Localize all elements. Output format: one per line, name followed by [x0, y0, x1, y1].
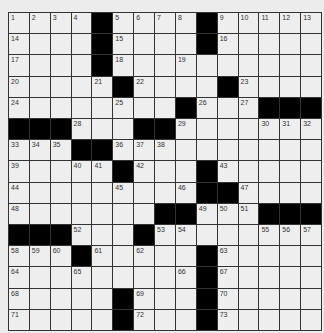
grid-cell[interactable] [113, 119, 133, 139]
grid-cell[interactable] [92, 204, 112, 224]
grid-cell[interactable] [134, 183, 154, 203]
grid-cell[interactable]: 17 [9, 55, 29, 75]
grid-cell[interactable] [259, 246, 279, 266]
grid-cell[interactable]: 18 [113, 55, 133, 75]
grid-cell[interactable] [259, 289, 279, 309]
grid-cell[interactable]: 5 [113, 13, 133, 33]
grid-cell[interactable] [280, 77, 300, 97]
grid-cell[interactable]: 49 [197, 204, 217, 224]
grid-cell[interactable] [280, 183, 300, 203]
grid-cell[interactable] [259, 77, 279, 97]
grid-cell[interactable]: 2 [30, 13, 50, 33]
grid-cell[interactable] [134, 34, 154, 54]
grid-cell[interactable] [155, 183, 175, 203]
grid-cell[interactable] [218, 225, 238, 245]
grid-cell[interactable] [197, 140, 217, 160]
grid-cell[interactable] [134, 55, 154, 75]
grid-cell[interactable]: 26 [197, 98, 217, 118]
grid-cell[interactable]: 1 [9, 13, 29, 33]
grid-cell[interactable] [92, 183, 112, 203]
grid-cell[interactable] [30, 310, 50, 330]
grid-cell[interactable] [259, 34, 279, 54]
grid-cell[interactable] [259, 310, 279, 330]
grid-cell[interactable]: 47 [239, 183, 259, 203]
grid-cell[interactable] [259, 161, 279, 181]
grid-cell[interactable]: 33 [9, 140, 29, 160]
grid-cell[interactable]: 46 [176, 183, 196, 203]
grid-cell[interactable]: 71 [9, 310, 29, 330]
grid-cell[interactable]: 69 [134, 289, 154, 309]
grid-cell[interactable] [197, 119, 217, 139]
grid-cell[interactable] [301, 140, 321, 160]
grid-cell[interactable]: 65 [72, 267, 92, 287]
grid-cell[interactable]: 58 [9, 246, 29, 266]
grid-cell[interactable]: 22 [134, 77, 154, 97]
grid-cell[interactable] [155, 289, 175, 309]
grid-cell[interactable]: 24 [9, 98, 29, 118]
grid-cell[interactable]: 36 [113, 140, 133, 160]
grid-cell[interactable]: 60 [51, 246, 71, 266]
grid-cell[interactable] [30, 34, 50, 54]
grid-cell[interactable] [51, 161, 71, 181]
grid-cell[interactable]: 50 [218, 204, 238, 224]
grid-cell[interactable]: 54 [176, 225, 196, 245]
grid-cell[interactable] [280, 267, 300, 287]
grid-cell[interactable]: 37 [134, 140, 154, 160]
grid-cell[interactable] [259, 55, 279, 75]
grid-cell[interactable] [155, 246, 175, 266]
grid-cell[interactable]: 13 [301, 13, 321, 33]
grid-cell[interactable] [30, 183, 50, 203]
grid-cell[interactable]: 3 [51, 13, 71, 33]
grid-cell[interactable] [301, 77, 321, 97]
grid-cell[interactable]: 19 [176, 55, 196, 75]
grid-cell[interactable] [280, 55, 300, 75]
grid-cell[interactable]: 43 [218, 161, 238, 181]
grid-cell[interactable] [134, 98, 154, 118]
grid-cell[interactable] [30, 267, 50, 287]
grid-cell[interactable]: 66 [176, 267, 196, 287]
grid-cell[interactable]: 53 [155, 225, 175, 245]
grid-cell[interactable] [72, 183, 92, 203]
grid-cell[interactable] [176, 140, 196, 160]
grid-cell[interactable] [280, 289, 300, 309]
grid-cell[interactable]: 35 [51, 140, 71, 160]
grid-cell[interactable] [259, 183, 279, 203]
grid-cell[interactable] [197, 77, 217, 97]
grid-cell[interactable] [239, 119, 259, 139]
grid-cell[interactable] [155, 98, 175, 118]
grid-cell[interactable] [51, 34, 71, 54]
grid-cell[interactable] [134, 267, 154, 287]
grid-cell[interactable]: 7 [155, 13, 175, 33]
grid-cell[interactable] [301, 161, 321, 181]
grid-cell[interactable] [301, 310, 321, 330]
grid-cell[interactable] [239, 289, 259, 309]
grid-cell[interactable]: 40 [72, 161, 92, 181]
grid-cell[interactable]: 23 [239, 77, 259, 97]
grid-cell[interactable]: 25 [113, 98, 133, 118]
grid-cell[interactable] [218, 98, 238, 118]
grid-cell[interactable] [176, 77, 196, 97]
grid-cell[interactable] [72, 55, 92, 75]
grid-cell[interactable] [92, 119, 112, 139]
grid-cell[interactable]: 14 [9, 34, 29, 54]
grid-cell[interactable]: 61 [92, 246, 112, 266]
grid-cell[interactable] [92, 289, 112, 309]
grid-cell[interactable] [155, 55, 175, 75]
grid-cell[interactable] [218, 55, 238, 75]
grid-cell[interactable] [280, 310, 300, 330]
grid-cell[interactable]: 32 [301, 119, 321, 139]
grid-cell[interactable] [239, 246, 259, 266]
grid-cell[interactable] [72, 204, 92, 224]
grid-cell[interactable]: 31 [280, 119, 300, 139]
grid-cell[interactable] [51, 204, 71, 224]
grid-cell[interactable]: 15 [113, 34, 133, 54]
grid-cell[interactable]: 73 [218, 310, 238, 330]
grid-cell[interactable] [155, 310, 175, 330]
grid-cell[interactable]: 27 [239, 98, 259, 118]
grid-cell[interactable] [239, 310, 259, 330]
grid-cell[interactable] [113, 246, 133, 266]
grid-cell[interactable] [218, 140, 238, 160]
grid-cell[interactable] [259, 140, 279, 160]
grid-cell[interactable]: 72 [134, 310, 154, 330]
grid-cell[interactable] [30, 204, 50, 224]
